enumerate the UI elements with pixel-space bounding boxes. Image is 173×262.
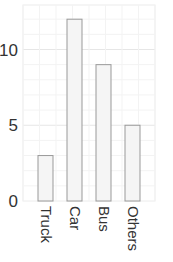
y-tick-label: 5: [9, 116, 18, 135]
bar-car: [67, 19, 82, 201]
x-tick-label: Car: [67, 206, 84, 230]
bar-others: [125, 125, 140, 201]
y-axis-ticks: 0510: [0, 41, 18, 212]
bar-truck: [38, 156, 53, 201]
x-tick-label: Truck: [38, 206, 55, 243]
x-tick-label: Bus: [96, 206, 113, 232]
y-tick-label: 0: [9, 192, 18, 211]
x-tick-label: Others: [125, 206, 142, 251]
bar-chart: 0510 TruckCarBusOthers: [0, 0, 173, 262]
bar-bus: [96, 65, 111, 201]
x-axis-ticks: TruckCarBusOthers: [38, 206, 142, 251]
y-tick-label: 10: [0, 41, 18, 60]
